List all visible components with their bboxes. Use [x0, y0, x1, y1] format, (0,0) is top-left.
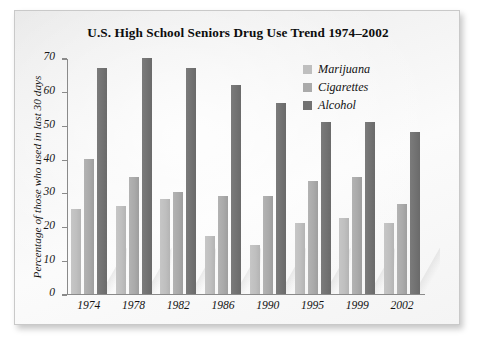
bar-cigarettes-2002[interactable] — [397, 204, 407, 293]
bar-marijuana-1999[interactable] — [339, 218, 349, 294]
bar-marijuana-1990[interactable] — [250, 245, 260, 294]
bar-cigarettes-1978[interactable] — [129, 177, 139, 293]
y-axis-title: Percentage of those who used in last 30 … — [29, 59, 45, 295]
x-axis-line — [67, 294, 425, 295]
bar-marijuana-1974[interactable] — [71, 209, 81, 293]
y-tick: 60 — [62, 92, 67, 93]
bar-group — [250, 59, 286, 294]
bar-alcohol-1995[interactable] — [321, 122, 331, 294]
y-tick-label: 50 — [44, 118, 56, 130]
y-tick: 70 — [62, 58, 67, 59]
bar-cigarettes-1982[interactable] — [173, 192, 183, 293]
y-tick-label: 0 — [49, 286, 55, 298]
bar-group — [116, 59, 152, 294]
bar-marijuana-2002[interactable] — [384, 223, 394, 294]
x-label-1978: 1978 — [122, 299, 145, 312]
x-label-1990: 1990 — [256, 299, 279, 312]
y-tick: 0 — [62, 294, 67, 295]
x-label-1982: 1982 — [167, 299, 190, 312]
bar-marijuana-1982[interactable] — [160, 199, 170, 293]
bar-cigarettes-1995[interactable] — [308, 181, 318, 294]
y-tick: 30 — [62, 193, 67, 194]
legend-label-marijuana: Marijuana — [318, 62, 370, 77]
chart-legend: MarijuanaCigarettesAlcohol — [303, 61, 370, 115]
bar-alcohol-1986[interactable] — [231, 85, 241, 294]
y-tick: 10 — [62, 261, 67, 262]
legend-swatch-cigarettes — [303, 83, 312, 92]
bar-group — [384, 59, 420, 294]
legend-label-cigarettes: Cigarettes — [318, 80, 368, 95]
legend-item-cigarettes[interactable]: Cigarettes — [303, 79, 370, 95]
y-tick-label: 40 — [44, 152, 56, 164]
y-tick-label: 10 — [44, 253, 56, 265]
figure-page: U.S. High School Seniors Drug Use Trend … — [0, 0, 477, 342]
bar-alcohol-2002[interactable] — [410, 132, 420, 294]
y-tick-label: 70 — [44, 50, 56, 62]
y-axis-title-text: Percentage of those who used in last 30 … — [31, 76, 43, 279]
bars-layer — [68, 59, 425, 294]
bar-alcohol-1999[interactable] — [365, 122, 375, 294]
bar-alcohol-1974[interactable] — [97, 68, 107, 294]
y-tick-label: 20 — [44, 219, 56, 231]
bar-cigarettes-1974[interactable] — [84, 159, 94, 294]
legend-item-marijuana[interactable]: Marijuana — [303, 61, 370, 77]
chart-title: U.S. High School Seniors Drug Use Trend … — [15, 25, 460, 41]
bar-alcohol-1978[interactable] — [142, 58, 152, 294]
x-axis-labels: 19741978198219861990199519992002 — [67, 299, 425, 321]
legend-label-alcohol: Alcohol — [318, 98, 356, 113]
bar-group — [205, 59, 241, 294]
x-label-1995: 1995 — [301, 299, 324, 312]
bar-cigarettes-1999[interactable] — [352, 177, 362, 293]
bar-alcohol-1990[interactable] — [276, 103, 286, 293]
plot-area: 010203040506070 — [67, 59, 425, 295]
bar-marijuana-1995[interactable] — [295, 223, 305, 294]
bar-alcohol-1982[interactable] — [186, 68, 196, 294]
bar-cigarettes-1990[interactable] — [263, 196, 273, 294]
x-label-1974: 1974 — [77, 299, 100, 312]
legend-item-alcohol[interactable]: Alcohol — [303, 97, 370, 113]
bar-marijuana-1986[interactable] — [205, 236, 215, 293]
bar-group — [160, 59, 196, 294]
bar-group — [71, 59, 107, 294]
y-tick: 50 — [62, 126, 67, 127]
y-tick-label: 30 — [44, 185, 56, 197]
y-tick: 40 — [62, 160, 67, 161]
legend-swatch-alcohol — [303, 101, 312, 110]
x-label-1999: 1999 — [346, 299, 369, 312]
bar-cigarettes-1986[interactable] — [218, 196, 228, 294]
x-label-1986: 1986 — [211, 299, 234, 312]
x-label-2002: 2002 — [390, 299, 413, 312]
bar-marijuana-1978[interactable] — [116, 206, 126, 294]
legend-swatch-marijuana — [303, 65, 312, 74]
chart-figure-frame: U.S. High School Seniors Drug Use Trend … — [14, 10, 460, 325]
y-tick: 20 — [62, 227, 67, 228]
y-tick-label: 60 — [44, 84, 56, 96]
